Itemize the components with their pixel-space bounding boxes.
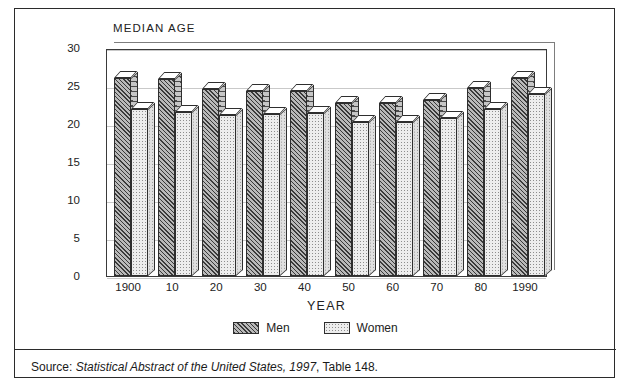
bar-front-face [175, 112, 192, 276]
chart-region: MEDIAN AGE 051015202530 1900102030405060… [15, 9, 616, 309]
bar-front-face [352, 122, 369, 276]
gridline [107, 278, 546, 279]
bar-men-1990 [511, 78, 528, 276]
bar-women-1900 [131, 109, 148, 276]
bar-front-face [467, 88, 484, 276]
bar-women-40 [307, 113, 324, 276]
bar-women-1990 [528, 94, 545, 276]
bar-women-80 [484, 109, 501, 276]
source-prefix: Source: [31, 360, 72, 374]
y-tick-label: 20 [40, 118, 80, 130]
y-tick-label: 0 [40, 270, 80, 282]
legend-swatch-women-icon [324, 322, 350, 334]
bar-side-face [280, 108, 287, 276]
y-tick-label: 15 [40, 156, 80, 168]
bar-front-face [290, 91, 307, 276]
plot-area [106, 49, 547, 277]
bar-men-60 [379, 103, 396, 276]
bar-front-face [396, 122, 413, 276]
bar-side-face [457, 112, 464, 276]
bar-women-10 [175, 112, 192, 276]
bar-side-face [545, 88, 552, 276]
legend-label-women: Women [357, 321, 398, 335]
bar-women-70 [440, 118, 457, 276]
bar-front-face [440, 118, 457, 276]
y-tick-label: 25 [40, 80, 80, 92]
bar-men-80 [467, 88, 484, 276]
legend-item-men: Men [233, 321, 289, 335]
bar-front-face [528, 94, 545, 276]
bar-men-70 [423, 100, 440, 276]
bar-front-face [131, 109, 148, 276]
legend-swatch-men-icon [233, 322, 259, 334]
x-axis-label: YEAR [106, 299, 547, 313]
bar-front-face [335, 103, 352, 276]
bar-side-face [413, 115, 420, 276]
bar-front-face [379, 103, 396, 276]
gridline [107, 50, 546, 51]
source-divider [15, 349, 616, 350]
legend-item-women: Women [324, 321, 398, 335]
bar-front-face [423, 100, 440, 276]
bar-men-20 [202, 89, 219, 276]
bar-women-60 [396, 122, 413, 276]
bar-men-50 [335, 103, 352, 276]
bar-front-face [263, 114, 280, 276]
bar-men-1900 [114, 78, 131, 276]
bar-front-face [484, 109, 501, 276]
y-tick-label: 10 [40, 194, 80, 206]
bar-side-face [192, 106, 199, 276]
bar-women-30 [263, 114, 280, 276]
y-tick-label: 30 [40, 42, 80, 54]
bar-side-face [236, 109, 243, 276]
chart-legend: Men Women [15, 321, 616, 335]
bar-front-face [511, 78, 528, 276]
source-note: Source: Statistical Abstract of the Unit… [31, 360, 378, 374]
bar-women-20 [219, 115, 236, 276]
bar-side-face [324, 106, 331, 276]
x-tick-label: 1990 [495, 281, 555, 293]
bar-side-face [369, 115, 376, 276]
source-suffix: , Table 148. [316, 360, 378, 374]
bar-men-40 [290, 91, 307, 276]
legend-label-men: Men [266, 321, 289, 335]
bar-front-face [114, 78, 131, 276]
y-tick-label: 5 [40, 232, 80, 244]
bar-front-face [202, 89, 219, 276]
source-title: Statistical Abstract of the United State… [76, 360, 316, 374]
figure-container: MEDIAN AGE 051015202530 1900102030405060… [14, 8, 615, 378]
bar-front-face [158, 79, 175, 276]
bar-front-face [307, 113, 324, 276]
bar-side-face [148, 103, 155, 276]
bar-men-30 [246, 91, 263, 276]
bar-men-10 [158, 79, 175, 276]
bar-side-face [501, 103, 508, 276]
bar-women-50 [352, 122, 369, 276]
bar-front-face [246, 91, 263, 276]
chart-axis-title: MEDIAN AGE [113, 22, 196, 34]
bar-front-face [219, 115, 236, 276]
